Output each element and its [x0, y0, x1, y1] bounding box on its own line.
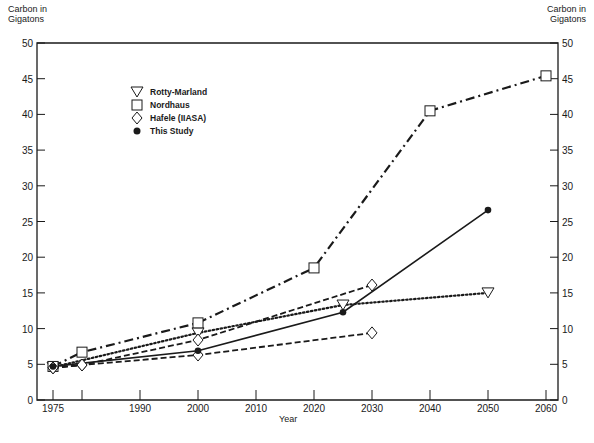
legend-item-nordhaus: Nordhaus	[130, 98, 207, 111]
legend: Rotty-Marland Nordhaus Hafele (IIASA) Th…	[130, 85, 207, 137]
left-axis-title-line1: Carbon in	[8, 4, 47, 14]
y-tick-label-right: 30	[562, 181, 574, 192]
series-hafele-iiasa-low	[53, 333, 372, 368]
y-tick-label-right: 5	[562, 359, 568, 370]
y-tick-label-right: 10	[562, 324, 574, 335]
legend-item-rotty-marland: Rotty-Marland	[130, 85, 207, 98]
right-axis-title: Carbon in Gigatons	[547, 4, 586, 24]
y-tick-label-right: 20	[562, 252, 574, 263]
y-tick-label-right: 0	[562, 395, 568, 406]
legend-label: Rotty-Marland	[150, 87, 207, 97]
square-marker-icon	[77, 347, 87, 357]
square-marker-icon	[425, 106, 435, 116]
filled-circle-icon	[130, 125, 144, 137]
y-tick-label-right: 50	[562, 38, 574, 49]
x-tick-label: 1990	[129, 403, 152, 414]
y-tick-label-left: 45	[22, 74, 34, 85]
legend-label: Nordhaus	[150, 100, 190, 110]
y-tick-label-right: 15	[562, 288, 574, 299]
y-tick-label-left: 30	[22, 181, 34, 192]
y-tick-label-right: 40	[562, 109, 574, 120]
y-tick-label-left: 10	[22, 324, 34, 335]
axes: 0055101015152020252530303535404045455050…	[22, 38, 574, 414]
y-tick-label-left: 50	[22, 38, 34, 49]
filled-circle-marker-icon	[340, 309, 347, 316]
x-tick-label: 2020	[303, 403, 326, 414]
y-tick-label-left: 5	[27, 359, 33, 370]
legend-item-this-study: This Study	[130, 124, 207, 137]
square-marker-icon	[541, 71, 551, 81]
filled-circle-marker-icon	[50, 363, 57, 370]
triangle-down-icon	[130, 86, 144, 98]
y-tick-label-left: 35	[22, 145, 34, 156]
diamond-icon	[130, 112, 144, 124]
y-tick-label-left: 40	[22, 109, 34, 120]
filled-circle-marker-icon	[195, 347, 202, 354]
y-tick-label-left: 20	[22, 252, 34, 263]
x-tick-label: 2030	[361, 403, 384, 414]
y-tick-label-left: 0	[27, 395, 33, 406]
left-axis-title-line2: Gigatons	[8, 14, 47, 24]
x-tick-label: 2040	[419, 403, 442, 414]
series-rotty-marland	[53, 293, 488, 367]
x-tick-label: 2010	[245, 403, 268, 414]
x-tick-label: 2000	[187, 403, 210, 414]
square-marker-icon	[193, 318, 203, 328]
legend-label: This Study	[150, 126, 193, 136]
right-axis-title-line2: Gigatons	[547, 14, 586, 24]
diamond-marker-icon	[193, 334, 203, 346]
series-line	[53, 293, 488, 367]
y-tick-label-right: 25	[562, 217, 574, 228]
series-layer	[47, 71, 551, 374]
series-line	[53, 333, 372, 368]
y-tick-label-right: 45	[562, 74, 574, 85]
legend-label: Hafele (IIASA)	[150, 113, 206, 123]
x-tick-label: 2050	[477, 403, 500, 414]
diamond-marker-icon	[367, 327, 377, 339]
right-axis-title-line1: Carbon in	[547, 4, 586, 14]
filled-circle-marker-icon	[485, 207, 492, 214]
legend-item-hafele: Hafele (IIASA)	[130, 111, 207, 124]
x-tick-label: 2060	[535, 403, 558, 414]
chart-canvas: 0055101015152020252530303535404045455050…	[0, 0, 594, 443]
left-axis-title: Carbon in Gigatons	[8, 4, 47, 24]
square-marker-icon	[309, 263, 319, 273]
y-tick-label-left: 25	[22, 217, 34, 228]
x-tick-label: 1975	[42, 403, 65, 414]
square-icon	[130, 99, 144, 111]
y-tick-label-right: 35	[562, 145, 574, 156]
x-axis-title: Year	[279, 414, 297, 424]
y-tick-label-left: 15	[22, 288, 34, 299]
